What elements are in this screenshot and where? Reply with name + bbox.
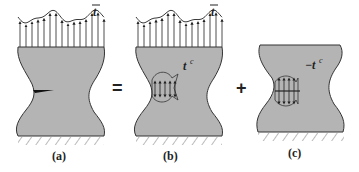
closure-sup-b: c: [190, 57, 194, 66]
closure-sup-c: c: [319, 56, 323, 65]
equals-sign: =: [112, 78, 123, 98]
panel-c: − t c (c): [257, 45, 344, 160]
traction-envelope: [18, 10, 104, 23]
top-traction-a: [18, 10, 104, 47]
plus-sign: +: [236, 78, 247, 98]
body-c: [257, 45, 344, 132]
superposition-diagram: t (a) = t t c (b) + − t c (c): [0, 0, 359, 172]
panel-a: t (a): [16, 5, 104, 163]
body-a: [16, 47, 104, 136]
top-traction-b: [136, 10, 222, 47]
panel-b: t t c (b): [134, 5, 222, 163]
panel-label-a: (a): [52, 149, 66, 163]
traction-envelope: [136, 10, 222, 23]
traction-label-a: t: [93, 5, 97, 19]
panel-label-b: (b): [163, 149, 178, 163]
body-b: [134, 47, 222, 136]
panel-label-c: (c): [288, 146, 301, 160]
traction-label-b: t: [211, 5, 215, 19]
fixed-support-a: [18, 137, 104, 145]
fixed-support-c: [258, 133, 344, 141]
fixed-support-b: [136, 137, 222, 145]
